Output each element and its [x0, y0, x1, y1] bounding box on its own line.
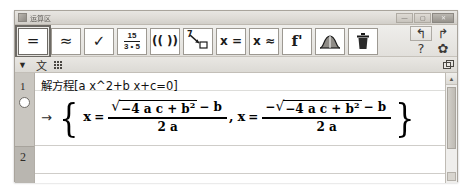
solution-2-equals: =: [247, 110, 261, 124]
solution-2-radicand: −4 a c + b2: [283, 100, 361, 116]
solution-1-radicand-text: −4 a c + b: [121, 102, 190, 116]
grid-glyph: [54, 61, 62, 69]
solution-2: x = − √ −4 a c + b2 − b: [236, 100, 393, 133]
solution-2-radical: √ −4 a c + b2: [275, 100, 361, 116]
cas-row-1[interactable]: 解方程[a x^2+b x+c=0] → { x =: [35, 73, 445, 146]
solve-button[interactable]: x =: [216, 28, 246, 55]
solution-separator: ,: [228, 109, 236, 124]
minimize-button[interactable]: —: [396, 13, 413, 23]
window-title: 运算区: [30, 13, 51, 23]
derivative-icon: f': [291, 32, 302, 50]
row-number-1: 1: [20, 80, 26, 92]
derivative-button[interactable]: f': [282, 28, 312, 55]
solve-approx-icon: x ≈: [253, 34, 275, 48]
cas-input-row-2[interactable]: [35, 146, 445, 162]
solution-1-fraction: √ −4 a c + b2 − b 2 a: [108, 100, 227, 133]
fraction-numerator: 15: [128, 32, 137, 41]
solution-1-numerator-tail: − b: [197, 100, 224, 114]
delete-button[interactable]: [348, 28, 378, 55]
solution-2-sign: −: [265, 100, 275, 114]
evaluate-button[interactable]: =: [18, 28, 48, 55]
solution-1-radical: √ −4 a c + b2: [111, 100, 197, 116]
evaluate-icon: =: [27, 32, 40, 50]
maximize-button[interactable]: ▢: [414, 13, 431, 23]
solution-1: x = √ −4 a c + b2 − b: [81, 100, 228, 133]
window-controls: — ▢ ✕: [396, 13, 454, 23]
undo-button[interactable]: ↰: [410, 26, 432, 41]
solve-icon: x =: [220, 34, 242, 48]
substitute-arrow-icon: [189, 34, 209, 50]
solution-2-radicand-text: −4 a c + b: [285, 102, 354, 116]
substitute-button[interactable]: 7: [183, 28, 213, 55]
approx-icon: ≈: [60, 32, 73, 50]
check-icon: ✓: [93, 32, 106, 50]
fraction-denominator: 3 • 5: [124, 41, 140, 51]
solution-set-expression: { x = √ −4 a c + b2: [56, 100, 418, 133]
redo-button[interactable]: ↱: [432, 26, 454, 41]
bell-curve-icon: [319, 34, 341, 49]
scrollbar-grip[interactable]: [447, 172, 456, 181]
cas-toolbar: = ≈ ✓ 15 3 • 5 (( )) 7: [15, 25, 457, 57]
title-bar: 运算区 — ▢ ✕: [15, 11, 457, 25]
expand-button[interactable]: (( )): [150, 28, 180, 55]
matrix-grid-icon[interactable]: [54, 58, 62, 72]
cas-window: 运算区 — ▢ ✕ = ≈ ✓ 15 3 • 5 (( )): [14, 10, 458, 182]
cas-output-row-1: → { x = √ −: [35, 91, 445, 143]
substitute-icon: 7: [186, 31, 210, 51]
keep-input-button[interactable]: ✓: [84, 28, 114, 55]
detach-window-icon[interactable]: [443, 60, 454, 70]
undo-redo-group: ↰ ↱ ? ✿: [410, 26, 455, 56]
trash-icon: [356, 33, 370, 50]
integral-button[interactable]: [315, 28, 345, 55]
scrollbar-thumb[interactable]: [447, 87, 456, 149]
scrollbar-track[interactable]: [446, 85, 457, 183]
settings-gear-icon[interactable]: ✿: [432, 41, 454, 56]
solution-1-denominator: 2 a: [154, 119, 180, 134]
solution-1-radicand: −4 a c + b2: [119, 100, 197, 116]
help-settings-row: ? ✿: [410, 41, 454, 56]
factor-button[interactable]: 15 3 • 5: [117, 28, 147, 55]
cas-input-row-1[interactable]: 解方程[a x^2+b x+c=0]: [35, 75, 445, 91]
solution-2-numerator: − √ −4 a c + b2 − b: [262, 100, 391, 117]
solution-2-variable: x: [236, 109, 248, 124]
solution-1-numerator: √ −4 a c + b2 − b: [108, 100, 227, 117]
gutter-cell-row-1: 1: [15, 73, 34, 146]
cas-rows: 解方程[a x^2+b x+c=0] → { x =: [35, 73, 445, 183]
row-number-2: 2: [20, 150, 26, 165]
text-style-button[interactable]: 文: [36, 58, 47, 72]
close-button[interactable]: ✕: [432, 13, 454, 23]
fraction-icon: 15 3 • 5: [124, 32, 140, 51]
style-bar: ▼ 文: [15, 57, 457, 73]
solution-2-fraction: − √ −4 a c + b2 − b 2 a: [262, 100, 391, 133]
visibility-toggle-row-1[interactable]: [19, 97, 30, 108]
numeric-button[interactable]: ≈: [51, 28, 81, 55]
app-icon: [18, 13, 27, 22]
scroll-up-arrow-icon[interactable]: ▲: [446, 73, 457, 85]
close-brace: }: [395, 101, 414, 134]
undo-redo-row: ↰ ↱: [410, 26, 454, 41]
cas-content-area: 1 2 解方程[a x^2+b x+c=0] → { x: [15, 73, 457, 183]
row-number-gutter: 1 2: [15, 73, 35, 183]
solution-1-variable: x: [81, 109, 93, 124]
help-button[interactable]: ?: [410, 41, 432, 56]
parentheses-icon: (( )): [152, 34, 178, 48]
solution-2-numerator-tail: − b: [362, 100, 389, 114]
solution-1-radicand-exponent: 2: [190, 100, 196, 110]
output-arrow-icon: →: [41, 110, 52, 125]
vertical-scrollbar[interactable]: ▲: [445, 73, 457, 183]
solution-2-denominator: 2 a: [314, 119, 340, 134]
solution-2-radicand-exponent: 2: [354, 100, 360, 110]
gutter-cell-row-2: 2: [15, 146, 34, 183]
solve-numeric-button[interactable]: x ≈: [249, 28, 279, 55]
cas-row-2[interactable]: [35, 146, 445, 174]
solution-1-equals: =: [93, 110, 107, 124]
chevron-down-icon[interactable]: ▼: [18, 60, 27, 70]
open-brace: {: [59, 101, 78, 134]
